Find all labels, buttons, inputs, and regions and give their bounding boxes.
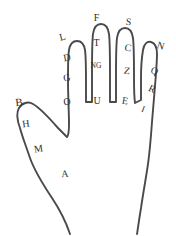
label-thumb-tip: B xyxy=(13,97,24,109)
label-index-upper: D xyxy=(61,52,73,64)
hand-letters-diagram: B H M L D G O F T NG U S C Z E N Q R I A xyxy=(0,0,176,236)
label-middle-base: U xyxy=(92,96,102,106)
label-index-middle: G xyxy=(61,72,72,83)
label-ring-base: E xyxy=(119,95,131,107)
label-middle-upper: T xyxy=(92,38,101,48)
label-ring-tip: S xyxy=(124,17,134,28)
label-ring-middle: Z xyxy=(121,65,132,76)
label-thumb-upper: H xyxy=(20,118,31,129)
label-palm: A xyxy=(60,169,71,180)
label-middle-tip: F xyxy=(92,13,101,23)
label-index-base: O xyxy=(62,97,73,108)
label-ring-upper: C xyxy=(122,42,133,53)
label-thumb-lower: M xyxy=(32,143,44,154)
label-middle-middle: NG xyxy=(88,62,104,70)
